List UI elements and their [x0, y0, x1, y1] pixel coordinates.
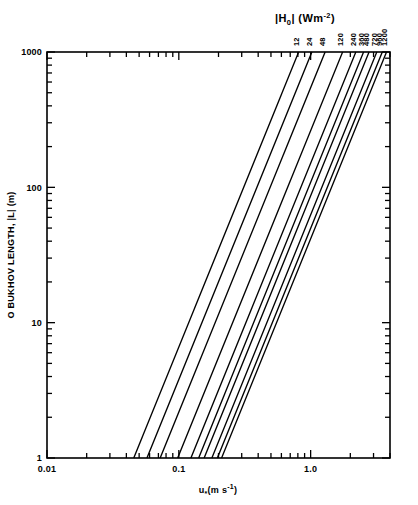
y-tick-label: 1: [37, 453, 42, 463]
curve-value-label: 24: [305, 37, 314, 46]
figure-background: [0, 0, 418, 505]
curve-value-label: 48: [318, 37, 327, 46]
x-tick-label: 0.01: [38, 464, 56, 474]
x-tick-label: 0.1: [172, 464, 185, 474]
chart-canvas: |H0| (Wm-2) 1224481202403604807209601200…: [0, 0, 418, 505]
y-tick-label: 10: [32, 318, 42, 328]
curve-value-label: 120: [336, 33, 345, 46]
x-tick-label: 1.0: [304, 464, 317, 474]
curve-value-label: 1200: [380, 29, 389, 47]
y-tick-label: 100: [26, 183, 42, 193]
y-tick-label: 1000: [21, 47, 42, 57]
curve-value-label: 12: [292, 37, 301, 46]
chart-figure: |H0| (Wm-2) 1224481202403604807209601200…: [0, 0, 418, 505]
y-axis-title: O BUKHOV LENGTH, |L| (m): [6, 191, 16, 318]
